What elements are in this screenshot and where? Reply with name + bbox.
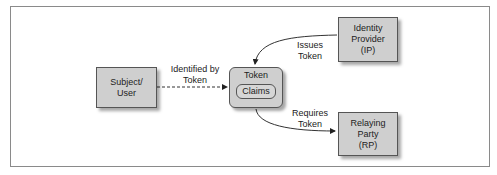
claims-node: Claims — [236, 84, 276, 99]
edge-label-requires-token: Requires Token — [288, 108, 332, 130]
identity-provider-node: Identity Provider (IP) — [338, 17, 398, 62]
subject-user-node: Subject/ User — [96, 67, 157, 108]
edge-label-identified-by-token: Identified by Token — [165, 64, 225, 86]
token-title: Token — [230, 70, 282, 80]
edge-label-issues-token: Issues Token — [290, 40, 330, 62]
relying-party-node: Relaying Party (RP) — [338, 112, 398, 156]
token-node: Token Claims — [229, 67, 283, 108]
